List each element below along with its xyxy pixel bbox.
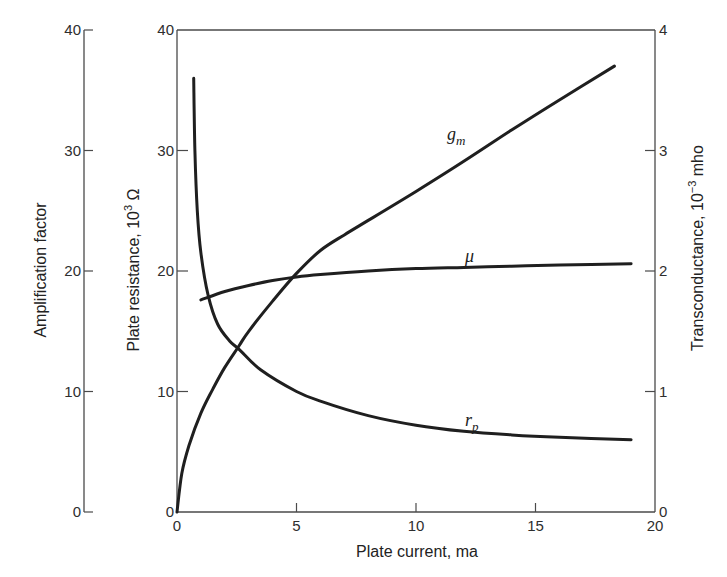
left-inner-ticks: 010203040 <box>157 21 188 520</box>
tick-label: 3 <box>659 142 667 159</box>
tick-label: 40 <box>157 21 174 38</box>
x-ticks: 05101520 <box>173 503 664 534</box>
tick-label: 4 <box>659 21 667 38</box>
tick-label: 20 <box>157 262 174 279</box>
gm-label: gm <box>447 124 465 148</box>
right-ticks: 01234 <box>645 21 667 520</box>
tick-label: 15 <box>527 517 544 534</box>
gm-curve <box>177 66 614 512</box>
tick-label: 0 <box>73 503 81 520</box>
tick-label: 20 <box>64 262 81 279</box>
rp-curve <box>194 78 631 440</box>
tick-label: 40 <box>64 21 81 38</box>
tick-label: 1 <box>659 383 667 400</box>
tick-label: 10 <box>157 383 174 400</box>
right-axis-title: Transconductance, 10−3 mho <box>686 145 706 351</box>
tick-label: 20 <box>647 517 664 534</box>
left-outer-ticks: 010203040 <box>64 21 93 520</box>
tick-label: 5 <box>292 517 300 534</box>
mu-curve <box>201 264 631 300</box>
tick-label: 2 <box>659 262 667 279</box>
mu-label: μ <box>464 246 474 266</box>
plot-frame <box>177 30 655 512</box>
left-outer-axis: 010203040 <box>64 21 93 520</box>
tick-label: 30 <box>64 142 81 159</box>
left-inner-axis-title: Plate resistance, 103 Ω <box>122 188 142 351</box>
left-outer-axis-title: Amplification factor <box>32 202 49 338</box>
tick-label: 10 <box>408 517 425 534</box>
tick-label: 0 <box>173 517 181 534</box>
tick-label: 10 <box>64 383 81 400</box>
tick-label: 30 <box>157 142 174 159</box>
tube-characteristics-chart: 010203040 Amplification factor 010203040… <box>0 0 727 577</box>
x-axis-title: Plate current, ma <box>356 543 478 560</box>
